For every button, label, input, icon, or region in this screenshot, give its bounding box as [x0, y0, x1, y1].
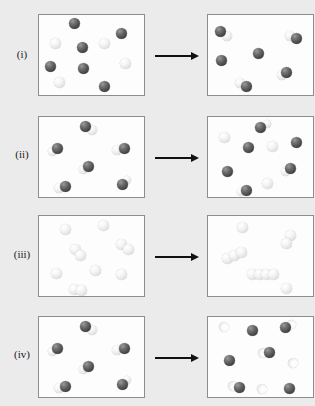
dark-sphere: [281, 67, 292, 78]
light-sphere: [76, 285, 87, 296]
dark-sphere: [284, 383, 295, 394]
dark-sphere: [119, 343, 130, 354]
light-sphere: [262, 178, 273, 189]
reaction-arrow: [155, 251, 199, 263]
light-sphere: [267, 141, 278, 152]
light-sphere: [90, 265, 101, 276]
dark-sphere: [215, 26, 226, 37]
dark-sphere: [222, 166, 233, 177]
dark-sphere: [60, 181, 71, 192]
dark-sphere: [80, 321, 91, 332]
dark-sphere: [117, 379, 128, 390]
light-sphere: [99, 38, 110, 49]
light-sphere: [281, 283, 292, 294]
dark-sphere: [83, 361, 94, 372]
row-label-iii: (iii): [8, 248, 36, 260]
arrow-shaft: [155, 157, 192, 159]
light-sphere: [54, 77, 65, 88]
dark-sphere: [264, 347, 275, 358]
light-sphere: [123, 244, 134, 255]
light-sphere: [237, 222, 248, 233]
arrow-head-icon: [191, 52, 199, 60]
light-sphere: [219, 132, 230, 143]
arrow-head-icon: [191, 154, 199, 162]
light-sphere: [60, 224, 71, 235]
dark-sphere: [80, 121, 91, 132]
dark-sphere: [216, 55, 227, 66]
dark-sphere: [291, 137, 302, 148]
dark-sphere: [117, 179, 128, 190]
dark-sphere: [253, 48, 264, 59]
light-sphere: [116, 269, 127, 280]
reaction-arrow: [155, 152, 199, 164]
arrow-shaft: [155, 55, 192, 57]
dark-sphere: [224, 355, 235, 366]
reaction-arrow: [155, 50, 199, 62]
dark-sphere: [241, 185, 252, 196]
dark-sphere: [83, 161, 94, 172]
light-sphere: [50, 38, 61, 49]
dark-sphere: [285, 163, 296, 174]
row-label-i: (i): [8, 48, 36, 60]
light-sphere: [236, 247, 247, 258]
dark-sphere: [45, 61, 56, 72]
arrow-shaft: [155, 357, 192, 359]
dark-sphere: [243, 142, 254, 153]
light-sphere: [75, 250, 86, 261]
dark-sphere: [99, 81, 110, 92]
light-sphere-partial: [288, 358, 298, 368]
dark-sphere: [280, 322, 291, 333]
row-label-iv: (iv): [8, 348, 36, 360]
light-sphere-partial: [219, 322, 229, 332]
row-label-ii: (ii): [8, 148, 36, 160]
light-sphere: [268, 269, 279, 280]
dark-sphere: [60, 381, 71, 392]
light-sphere: [98, 220, 109, 231]
dark-sphere: [119, 143, 130, 154]
arrow-head-icon: [191, 253, 199, 261]
arrow-head-icon: [191, 354, 199, 362]
reaction-diagram-figure: (i)(ii)(iii)(iv): [0, 0, 315, 406]
dark-sphere: [52, 143, 63, 154]
dark-sphere: [52, 343, 63, 354]
dark-sphere: [77, 42, 88, 53]
dark-sphere: [234, 382, 245, 393]
dark-sphere: [247, 325, 258, 336]
light-sphere: [51, 268, 62, 279]
dark-sphere: [78, 63, 89, 74]
dark-sphere: [69, 18, 80, 29]
dark-sphere: [116, 28, 127, 39]
dark-sphere: [255, 122, 266, 133]
panel-iii-before: [38, 215, 145, 297]
dark-sphere: [241, 81, 252, 92]
light-sphere: [281, 238, 292, 249]
light-sphere-partial: [257, 384, 267, 394]
light-sphere: [120, 58, 131, 69]
arrow-shaft: [155, 256, 192, 258]
reaction-arrow: [155, 352, 199, 364]
dark-sphere: [291, 33, 302, 44]
